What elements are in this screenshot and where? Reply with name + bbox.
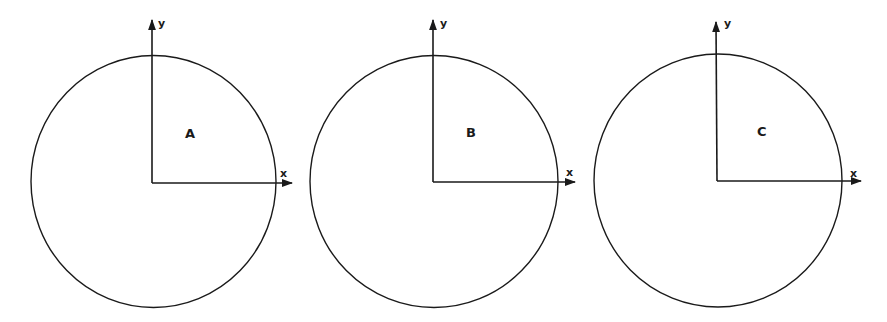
y-axis-label-b: y xyxy=(440,17,447,30)
y-axis-label-c: y xyxy=(724,17,731,30)
region-label-b: B xyxy=(466,125,476,140)
x-axis-label-c: x xyxy=(850,167,857,180)
region-label-c: C xyxy=(757,124,767,139)
panel-a: y x A xyxy=(31,17,292,308)
panel-b: y x B xyxy=(310,17,575,308)
region-label-a: A xyxy=(185,126,195,141)
panel-c: y x C xyxy=(594,17,861,307)
y-axis-c xyxy=(716,22,717,181)
diagram-canvas: y x A y x B y x C xyxy=(0,0,887,322)
circle-a xyxy=(31,56,276,308)
y-axis-label-a: y xyxy=(158,17,165,30)
x-axis-label-b: x xyxy=(566,166,573,179)
x-axis-label-a: x xyxy=(280,167,287,180)
